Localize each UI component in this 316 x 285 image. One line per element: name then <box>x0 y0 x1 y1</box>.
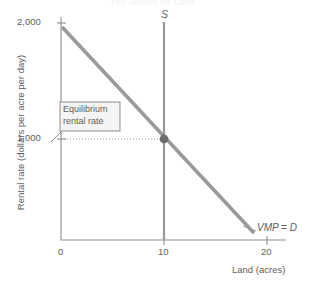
x-axis-title: Land (acres) <box>232 264 285 275</box>
equilibrium-callout-line-2: rental rate <box>63 116 119 128</box>
equilibrium-callout-leader <box>51 131 62 142</box>
equilibrium-callout-line-1: Equilibrium <box>63 104 119 116</box>
y-axis-title: Rental rate (dollars per acre per day) <box>15 28 26 238</box>
xtick-label-10: 10 <box>158 246 169 257</box>
chart-plot-area <box>0 0 316 285</box>
chart-figure: The Market for Land 2,000 1,000 0 10 20 … <box>0 0 316 285</box>
xtick-label-0: 0 <box>58 246 63 257</box>
supply-curve-label: S <box>161 8 168 20</box>
demand-curve-label: VMP = D <box>257 222 297 233</box>
ytick-label-2000: 2,000 <box>17 16 41 27</box>
xtick-label-20: 20 <box>261 246 272 257</box>
equilibrium-callout-text: Equilibrium rental rate <box>63 104 119 127</box>
equilibrium-point-marker <box>160 135 169 144</box>
